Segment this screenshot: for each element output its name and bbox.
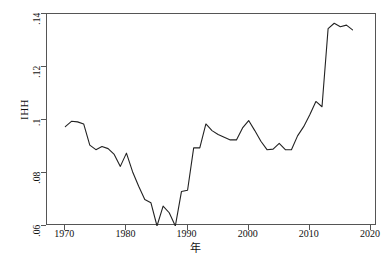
x-tick-label: 1990 xyxy=(167,229,207,239)
x-tick-label: 2000 xyxy=(228,229,268,239)
x-tick-label: 1970 xyxy=(44,229,84,239)
y-axis-title: IHH xyxy=(19,80,30,140)
y-tick-label: .08 xyxy=(33,172,43,210)
y-tick-label: .14 xyxy=(33,13,43,51)
x-axis-title: 年 xyxy=(0,243,390,254)
plot-area xyxy=(46,13,376,225)
ihh-line-chart: IHH .06.08.1.12.14 197019801990200020102… xyxy=(0,0,390,263)
x-tick-label: 2020 xyxy=(350,229,390,239)
data-line-svg xyxy=(47,14,377,226)
series-ihh-line xyxy=(65,23,352,226)
x-tick-label: 2010 xyxy=(289,229,329,239)
x-tick-label: 1980 xyxy=(105,229,145,239)
y-tick-label: .1 xyxy=(33,119,43,157)
y-tick-label: .12 xyxy=(33,66,43,104)
